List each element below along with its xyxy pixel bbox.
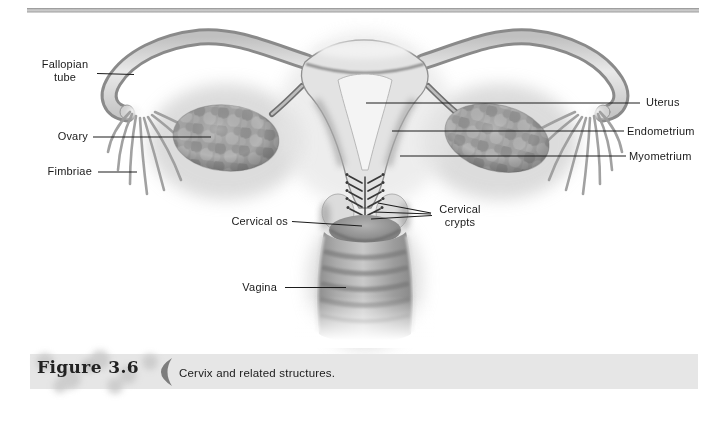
label-fallopian-tube: Fallopian tube (36, 58, 94, 83)
label-text: Fallopian (36, 58, 94, 71)
label-text: Vagina (232, 281, 277, 294)
label-text: tube (36, 71, 94, 84)
label-text: Fimbriae (36, 165, 92, 178)
label-text: Endometrium (627, 125, 695, 138)
label-text: crypts (432, 216, 488, 229)
label-text: Uterus (646, 96, 680, 109)
label-ovary: Ovary (40, 130, 88, 143)
figure-page: Fallopian tube Ovary Fimbriae Uterus End… (0, 0, 726, 423)
label-text: Cervical os (228, 215, 288, 228)
figure-caption: Cervix and related structures. (179, 367, 335, 379)
label-endometrium: Endometrium (627, 125, 695, 138)
label-uterus: Uterus (646, 96, 680, 109)
figure-number: Figure 3.6 (37, 357, 139, 377)
label-fimbriae: Fimbriae (36, 165, 92, 178)
label-cervical-crypts: Cervical crypts (432, 203, 488, 228)
label-cervical-os: Cervical os (228, 215, 288, 228)
label-text: Myometrium (629, 150, 692, 163)
label-text: Cervical (432, 203, 488, 216)
label-myometrium: Myometrium (629, 150, 692, 163)
top-rule (27, 8, 699, 13)
label-text: Ovary (40, 130, 88, 143)
label-vagina: Vagina (232, 281, 277, 294)
vagina-canal (295, 215, 435, 348)
